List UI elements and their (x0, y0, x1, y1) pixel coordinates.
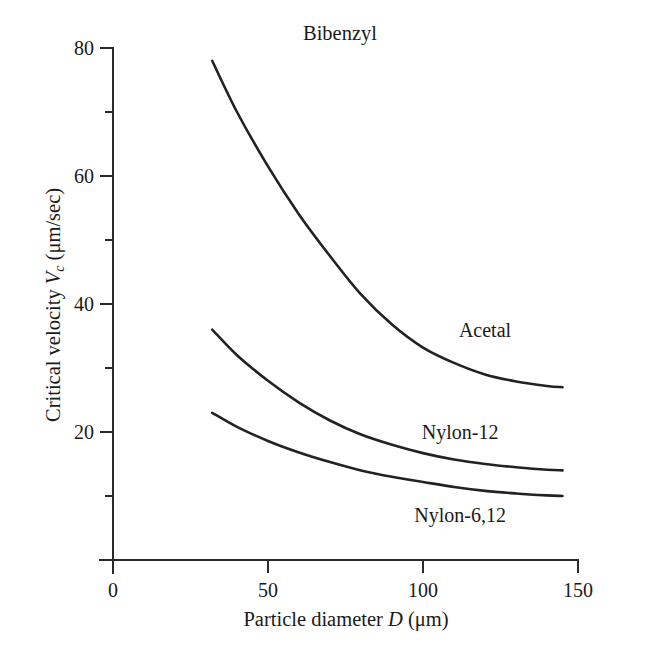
series-label-acetal: Acetal (459, 319, 511, 342)
x-axis-label-post: (μm) (403, 608, 449, 630)
ticks-group (100, 48, 578, 573)
y-axis-label: Critical velocity Vc (μm/sec) (42, 75, 68, 535)
x-tick-label: 100 (383, 580, 463, 600)
x-tick-label: 150 (538, 580, 618, 600)
y-axis-label-pre: Critical velocity (42, 284, 64, 422)
x-axis-label: Particle diameter D (μm) (113, 608, 579, 631)
plot-canvas (0, 0, 666, 657)
x-tick-label: 50 (228, 580, 308, 600)
series-label-nylon-6-12: Nylon-6,12 (414, 504, 506, 527)
chart-title: Bibenzyl (250, 22, 430, 45)
y-axis-label-variable: V (42, 272, 64, 285)
series-curve-nylon-6-12 (212, 413, 562, 496)
y-axis-label-subscript: c (52, 266, 67, 272)
curves-group (212, 61, 562, 496)
chart-figure: 050100150 20406080 Bibenzyl Particle dia… (0, 0, 666, 657)
x-tick-label: 0 (73, 580, 153, 600)
axes-group (100, 48, 578, 573)
x-axis-label-variable: D (388, 608, 403, 630)
y-axis-label-post: (μm/sec) (42, 188, 64, 266)
x-axis-label-pre: Particle diameter (243, 608, 388, 630)
series-curve-nylon-12 (212, 330, 562, 471)
series-label-nylon-12: Nylon-12 (422, 421, 499, 444)
y-tick-label: 80 (14, 38, 94, 58)
